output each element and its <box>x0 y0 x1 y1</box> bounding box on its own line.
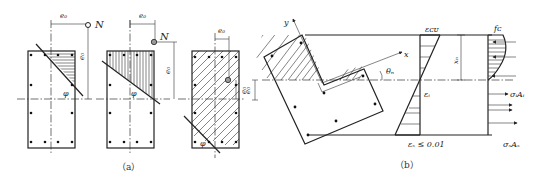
column-outline <box>28 51 75 148</box>
strain-bottom-label: εₛ ≤ 0.01 <box>408 140 445 149</box>
ecc-x-label: e₀ <box>218 27 225 35</box>
l-section-outline <box>264 35 383 144</box>
strain-mid-label: εᵢ <box>424 90 430 99</box>
load-label: N <box>94 19 105 30</box>
angle-label: φ <box>63 89 69 98</box>
load-point-icon <box>225 77 230 82</box>
angle-label: φ <box>200 139 206 148</box>
x-axis-label: x <box>404 50 409 59</box>
strain-diagram <box>395 35 440 135</box>
ecc-x-label: e₀ <box>60 12 67 20</box>
caption-b: （b） <box>395 160 419 170</box>
column-outline <box>107 51 154 148</box>
angle-label: φ <box>131 89 137 98</box>
stress-diagram <box>488 35 517 135</box>
section-a3: e₀ e₀ φ <box>178 27 250 158</box>
angle-arc <box>380 71 382 80</box>
force-label-1: σᵢAᵢ <box>510 90 525 99</box>
compression-zone-hatch <box>28 54 80 81</box>
load-point-icon <box>151 39 156 44</box>
angle-label: θₙ <box>386 67 394 76</box>
y-axis-label: y <box>283 18 289 27</box>
ecc-x-label: e₀ <box>139 12 146 20</box>
depth-label: xₙ <box>452 57 460 64</box>
rebar-dots <box>271 42 377 137</box>
section-a1: e₀ N e₀ φ <box>17 12 105 155</box>
rebar-dots <box>30 54 74 144</box>
biaxial-section-diagram: e₀ N e₀ φ <box>0 0 542 182</box>
ecc-y-label: e₀ <box>78 53 86 60</box>
strain-top-label: εᴄᴜ <box>425 25 440 34</box>
stress-label: fᴄ <box>493 24 502 33</box>
ecc-label: e₀ <box>244 87 252 94</box>
force-label-2: σₛAₛ <box>503 140 520 149</box>
section-a2: e₀ N e₀ φ <box>96 12 177 155</box>
neutral-axis <box>36 44 83 96</box>
caption-a: （a） <box>117 162 140 172</box>
compression-zone-hatch <box>250 18 349 80</box>
load-label: N <box>159 31 170 42</box>
y-axis-arrow <box>293 19 322 83</box>
load-point-icon <box>86 23 91 28</box>
panel-b: e₀ y x <box>244 18 525 149</box>
ecc-y-label: e₀ <box>164 67 172 74</box>
column-outline <box>192 51 239 148</box>
